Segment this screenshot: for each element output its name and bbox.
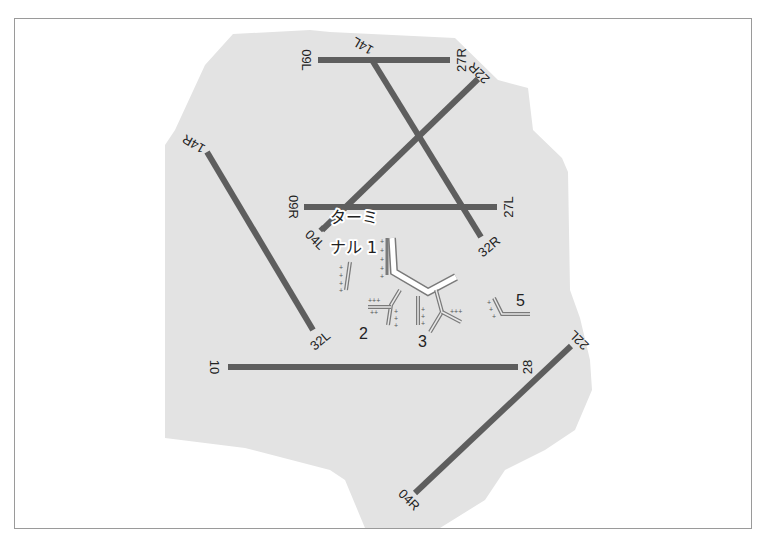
svg-text:+: + xyxy=(339,287,343,294)
svg-text:+: + xyxy=(380,256,384,263)
svg-text:+: + xyxy=(380,273,384,280)
svg-text:+: + xyxy=(394,308,398,315)
runway-label-10: 10 xyxy=(207,360,222,374)
runway-label-09L: 09L xyxy=(299,49,314,71)
runway-label-09R: 09R xyxy=(286,195,301,219)
terminal-2-label: 2 xyxy=(359,325,368,342)
airport-map: 09L 27R 14L 22R 14R 09R 04L 27L 32R 32L … xyxy=(0,0,768,540)
svg-text:+: + xyxy=(339,280,343,287)
airport-area xyxy=(165,30,592,528)
svg-text:+: + xyxy=(421,306,425,313)
runway-label-27L: 27L xyxy=(501,196,516,218)
svg-text:+: + xyxy=(380,238,384,245)
svg-text:+: + xyxy=(492,313,496,320)
svg-text:+: + xyxy=(394,322,398,329)
terminal-3-label: 3 xyxy=(418,333,427,350)
runway-label-27R: 27R xyxy=(454,48,469,72)
svg-text:+++: +++ xyxy=(450,308,462,315)
svg-text:+: + xyxy=(421,320,425,327)
svg-text:+++: +++ xyxy=(368,297,380,304)
svg-text:+: + xyxy=(380,247,384,254)
svg-text:+: + xyxy=(339,264,343,271)
runway-label-28: 28 xyxy=(520,360,535,374)
terminal-5-label: 5 xyxy=(516,292,525,309)
svg-text:+: + xyxy=(394,315,398,322)
terminal-1-label-line2: ナル 1 xyxy=(330,238,377,257)
svg-text:++: ++ xyxy=(370,309,378,316)
svg-text:+: + xyxy=(339,272,343,279)
svg-text:+: + xyxy=(421,313,425,320)
terminal-1-gates: +++++ xyxy=(380,238,384,280)
svg-text:+: + xyxy=(489,306,493,313)
svg-text:+: + xyxy=(380,265,384,272)
svg-text:+: + xyxy=(487,299,491,306)
terminal-1-label-line1: ターミ xyxy=(330,208,378,227)
